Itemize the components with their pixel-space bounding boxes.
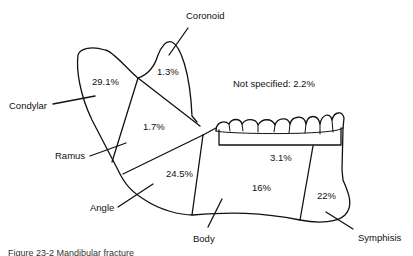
body-symphisis-division bbox=[300, 146, 313, 220]
mandible-diagram: Coronoid Condylar Ramus Angle Body Symph… bbox=[0, 0, 413, 256]
coronoid-label: Coronoid bbox=[186, 11, 225, 21]
mandible-outer-outline bbox=[78, 48, 350, 222]
condylar-percent: 29.1% bbox=[92, 77, 119, 87]
angle-leader-line bbox=[118, 184, 153, 207]
condylar-label: Condylar bbox=[9, 101, 47, 111]
alveolar-percent: 3.1% bbox=[270, 153, 292, 163]
not-specified-note: Not specified: 2.2% bbox=[233, 79, 315, 89]
condylar-leader-line bbox=[53, 96, 95, 104]
angle-body-division bbox=[192, 135, 203, 215]
coronoid-outline bbox=[138, 42, 197, 122]
ramus-label: Ramus bbox=[55, 151, 85, 161]
teeth-row bbox=[216, 113, 344, 131]
teeth-separators bbox=[216, 120, 343, 134]
symphisis-percent: 22% bbox=[317, 191, 336, 201]
body-label: Body bbox=[193, 234, 215, 244]
mandible-outline bbox=[0, 0, 413, 256]
ramus-leader-line bbox=[90, 143, 126, 156]
symphisis-leader-line bbox=[326, 212, 353, 229]
symphisis-label: Symphisis bbox=[358, 233, 401, 243]
body-percent: 16% bbox=[252, 183, 271, 193]
alveolar-box bbox=[219, 128, 341, 145]
condylar-ramus-division bbox=[112, 78, 138, 162]
coronoid-percent: 1.3% bbox=[157, 67, 179, 77]
ramus-percent: 1.7% bbox=[143, 122, 165, 132]
ramus-teeth-junction bbox=[203, 128, 216, 135]
angle-percent: 24.5% bbox=[166, 169, 193, 179]
figure-caption: Figure 23-2 Mandibular fracture bbox=[8, 249, 134, 256]
angle-label: Angle bbox=[90, 203, 114, 213]
